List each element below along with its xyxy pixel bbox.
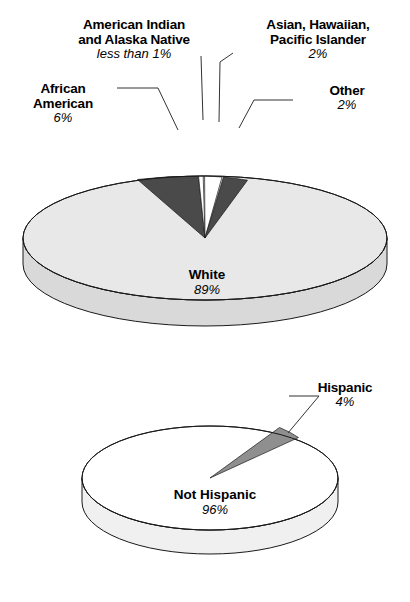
label-asian-pct: 2% [243, 47, 393, 62]
label-american-indian: American Indian and Alaska Native less t… [46, 17, 222, 62]
label-hispanic-name: Hispanic [290, 380, 400, 395]
label-asian-line1: Asian, Hawaiian, [243, 17, 393, 32]
label-american-indian-line2: and Alaska Native [46, 32, 222, 47]
leader-line-african-american [117, 88, 178, 130]
label-asian-line2: Pacific Islander [243, 32, 393, 47]
label-hispanic: Hispanic 4% [290, 380, 400, 410]
label-not-hispanic-name: Not Hispanic [150, 487, 280, 503]
label-american-indian-pct: less than 1% [46, 47, 222, 62]
label-african-american-pct: 6% [8, 111, 118, 126]
label-other-name: Other [295, 83, 399, 98]
label-african-american-line1: African [8, 81, 118, 96]
race-pie-3d [23, 176, 387, 326]
label-white-pct: 89% [152, 283, 262, 298]
pie-charts-figure: American Indian and Alaska Native less t… [0, 0, 410, 602]
label-white: White 89% [152, 267, 262, 297]
label-asian-hawaiian-pacific-islander: Asian, Hawaiian, Pacific Islander 2% [243, 17, 393, 62]
race-pie-leader-lines [117, 53, 293, 130]
label-other: Other 2% [295, 83, 399, 113]
leader-line-other [239, 100, 293, 128]
label-american-indian-line1: American Indian [46, 17, 222, 32]
label-not-hispanic-pct: 96% [150, 503, 280, 518]
leader-line-asian [219, 53, 233, 122]
label-african-american: African American 6% [8, 81, 118, 126]
label-african-american-line2: American [8, 96, 118, 111]
label-other-pct: 2% [295, 98, 399, 113]
label-not-hispanic: Not Hispanic 96% [150, 487, 280, 517]
leader-line-american-indian [201, 56, 203, 120]
label-white-name: White [152, 267, 262, 283]
label-hispanic-pct: 4% [290, 395, 400, 410]
